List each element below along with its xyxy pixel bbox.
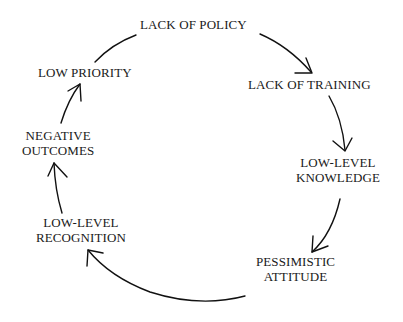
- node-label: LACK OF POLICY: [140, 17, 247, 32]
- node-negative-outcomes: NEGATIVE OUTCOMES: [22, 128, 94, 158]
- node-low-level-recognition: LOW-LEVEL RECOGNITION: [36, 215, 126, 245]
- arrow-training-to-knowledge: [329, 96, 352, 151]
- node-label: NEGATIVE: [22, 128, 94, 143]
- arrow-pessimistic-to-recognition: [87, 250, 245, 301]
- node-label: LACK OF TRAINING: [248, 77, 371, 92]
- node-label: KNOWLEDGE: [296, 170, 380, 185]
- node-label: LOW-LEVEL: [296, 155, 380, 170]
- node-label: ATTITUDE: [256, 269, 335, 284]
- arrow-priority-to-policy: [95, 35, 136, 62]
- node-label: LOW-LEVEL: [36, 215, 126, 230]
- arrow-policy-to-training: [260, 34, 312, 73]
- arrow-negative-to-priority: [61, 84, 81, 123]
- node-label: PESSIMISTIC: [256, 254, 335, 269]
- arrow-knowledge-to-pessimistic: [312, 199, 340, 252]
- node-label: LOW PRIORITY: [38, 65, 132, 80]
- node-label: OUTCOMES: [22, 143, 94, 158]
- node-low-level-knowledge: LOW-LEVEL KNOWLEDGE: [296, 155, 380, 185]
- node-low-priority: LOW PRIORITY: [38, 65, 132, 80]
- node-lack-of-policy: LACK OF POLICY: [140, 17, 247, 32]
- node-lack-of-training: LACK OF TRAINING: [248, 77, 371, 92]
- node-label: RECOGNITION: [36, 230, 126, 245]
- node-pessimistic-attitude: PESSIMISTIC ATTITUDE: [256, 254, 335, 284]
- arrow-recognition-to-negative: [48, 163, 67, 213]
